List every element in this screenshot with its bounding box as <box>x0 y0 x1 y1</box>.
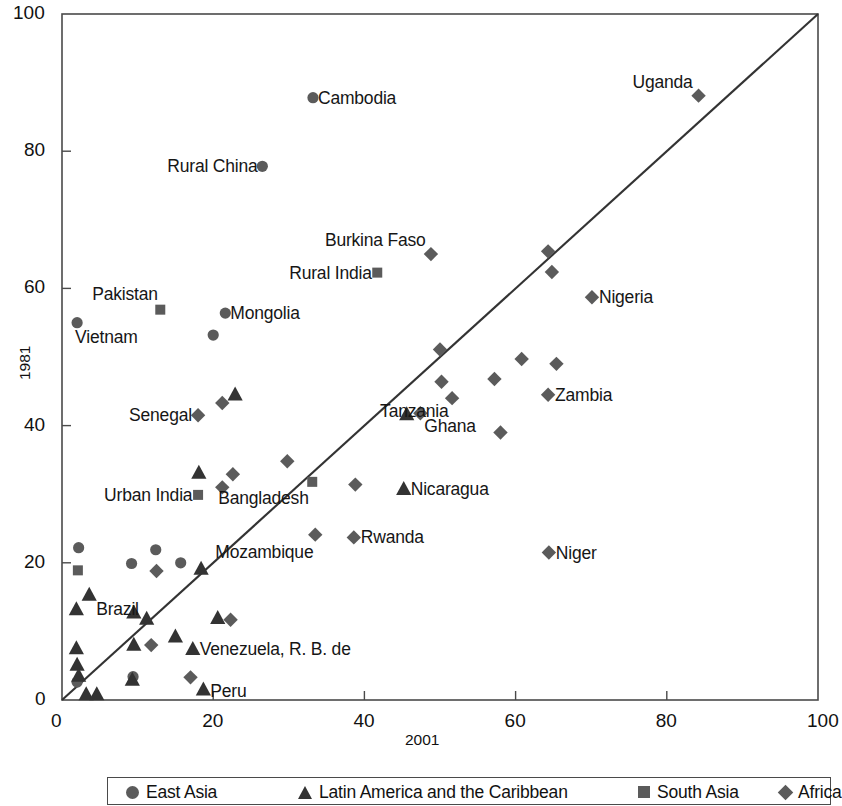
data-point-nigeria <box>585 290 599 304</box>
point-label-niger: Niger <box>556 543 597 564</box>
point-label-venezuela-r-b-de: Venezuela, R. B. de <box>200 639 351 660</box>
legend-label: South Asia <box>657 782 739 803</box>
legend-label: Latin America and the Caribbean <box>319 782 568 803</box>
data-point-peru <box>196 681 211 695</box>
data-point-diamond-3-8 <box>434 374 448 388</box>
data-point-burkina-faso <box>424 247 438 261</box>
point-label-vietnam: Vietnam <box>75 327 137 348</box>
x-tick-label-0: 0 <box>51 710 62 732</box>
data-point-triangle-1-2 <box>228 386 243 400</box>
data-point-nicaragua <box>396 481 411 495</box>
data-point-brazil <box>82 587 97 601</box>
legend-circle-icon <box>126 786 139 799</box>
data-point-triangle-1-13 <box>69 640 84 654</box>
point-label-mozambique: Mozambique <box>215 542 313 563</box>
data-point-square-2-4 <box>73 565 83 575</box>
data-point-triangle-1-5 <box>69 601 84 615</box>
data-point-venezuela-r-b-de <box>185 641 200 655</box>
data-point-circle-0-8 <box>150 544 161 555</box>
y-tick-label-40: 40 <box>24 414 45 436</box>
data-point-diamond-3-6 <box>514 352 528 366</box>
data-point-diamond-3-17 <box>226 467 240 481</box>
legend-item-east-asia[interactable]: East Asia <box>126 778 217 806</box>
point-label-bangladesh: Bangladesh <box>218 488 308 509</box>
point-label-urban-india: Urban India <box>104 485 192 506</box>
point-label-nigeria: Nigeria <box>599 287 653 308</box>
data-point-uganda <box>691 88 705 102</box>
x-tick-label-80: 80 <box>656 710 677 732</box>
data-point-diamond-3-5 <box>433 342 447 356</box>
point-label-mongolia: Mongolia <box>230 303 299 324</box>
y-tick-label-20: 20 <box>24 551 45 573</box>
data-point-diamond-3-2 <box>541 244 555 258</box>
data-point-senegal <box>191 408 205 422</box>
point-label-cambodia: Cambodia <box>318 88 396 109</box>
legend-label: East Asia <box>146 782 217 803</box>
data-point-triangle-1-10 <box>168 629 183 643</box>
y-tick-label-0: 0 <box>35 688 46 710</box>
data-point-rwanda <box>347 530 361 544</box>
data-point-diamond-3-15 <box>215 396 229 410</box>
point-label-rural-china: Rural China <box>167 156 257 177</box>
point-label-senegal: Senegal <box>129 405 192 426</box>
reference-line-45deg <box>62 14 818 700</box>
x-tick-label-40: 40 <box>353 710 374 732</box>
y-axis-title: 1981 <box>16 346 34 380</box>
point-label-rural-india: Rural India <box>289 263 371 284</box>
data-point-zambia <box>541 388 555 402</box>
point-label-burkina-faso: Burkina Faso <box>325 230 426 251</box>
legend-item-latin-america-and-the-caribbean[interactable]: Latin America and the Caribbean <box>298 778 568 806</box>
chart-legend: East AsiaLatin America and the Caribbean… <box>107 777 831 805</box>
legend-diamond-icon <box>778 784 794 800</box>
data-point-diamond-3-13 <box>493 425 507 439</box>
data-point-circle-0-6 <box>126 558 137 569</box>
point-label-peru: Peru <box>210 681 246 702</box>
x-tick-label-60: 60 <box>505 710 526 732</box>
point-label-nicaragua: Nicaragua <box>411 479 489 500</box>
data-point-diamond-3-24 <box>223 613 237 627</box>
data-point-mongolia <box>220 307 231 318</box>
data-point-rural-china <box>257 161 268 172</box>
data-point-bangladesh <box>307 477 317 487</box>
data-point-mozambique <box>308 527 322 541</box>
legend-triangle-icon <box>298 786 312 799</box>
data-point-diamond-3-23 <box>149 564 163 578</box>
data-point-niger <box>542 545 556 559</box>
data-point-diamond-3-7 <box>549 357 563 371</box>
data-point-triangle-1-3 <box>191 465 206 479</box>
data-point-diamond-3-16 <box>280 454 294 468</box>
data-point-rural-india <box>372 268 382 278</box>
x-tick-label-20: 20 <box>202 710 223 732</box>
point-label-rwanda: Rwanda <box>361 527 424 548</box>
x-tick-label-100: 100 <box>807 710 839 732</box>
point-label-zambia: Zambia <box>555 385 612 406</box>
data-point-triangle-1-14 <box>70 657 85 671</box>
point-label-brazil: Brazil <box>96 599 139 620</box>
y-tick-label-100: 100 <box>13 2 45 24</box>
x-axis-title: 2001 <box>405 731 439 749</box>
data-point-circle-0-5 <box>73 542 84 553</box>
legend-item-south-asia[interactable]: South Asia <box>638 778 739 806</box>
data-point-circle-0-7 <box>175 557 186 568</box>
point-label-ghana: Ghana <box>424 416 476 437</box>
point-label-uganda: Uganda <box>633 72 693 93</box>
data-point-pakistan <box>155 305 165 315</box>
data-point-triangle-1-19 <box>89 686 104 700</box>
data-point-diamond-3-26 <box>183 670 197 684</box>
data-point-diamond-3-25 <box>144 638 158 652</box>
legend-item-africa[interactable]: Africa <box>780 778 842 806</box>
legend-label: Africa <box>798 782 842 803</box>
legend-square-icon <box>638 786 650 798</box>
point-label-pakistan: Pakistan <box>92 284 158 305</box>
data-point-diamond-3-19 <box>348 477 362 491</box>
data-point-diamond-3-3 <box>545 265 559 279</box>
data-point-circle-0-4 <box>208 329 219 340</box>
data-point-cambodia <box>307 92 318 103</box>
y-tick-label-80: 80 <box>24 139 45 161</box>
data-point-triangle-1-9 <box>210 610 225 624</box>
data-point-diamond-3-9 <box>487 372 501 386</box>
data-point-urban-india <box>193 490 203 500</box>
y-tick-label-60: 60 <box>24 276 45 298</box>
